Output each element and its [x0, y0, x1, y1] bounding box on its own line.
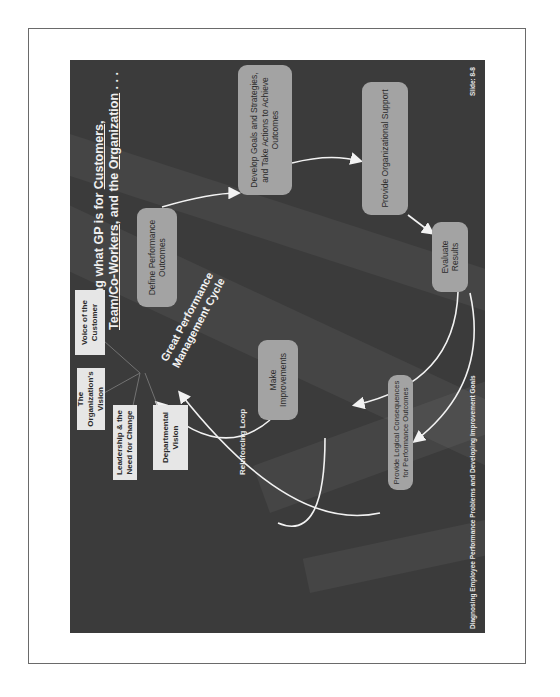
- input-departmental-vision: Departmental Vision: [153, 405, 188, 470]
- title-sep1: ,: [92, 120, 106, 123]
- slide: Defining what GP is for Customers, Team/…: [70, 60, 485, 633]
- step-evaluate-results: Evaluate Results: [432, 222, 468, 292]
- title-customers: Customers: [92, 124, 106, 189]
- title-team: Team/Co-Workers: [107, 224, 121, 330]
- slide-footer: Diagnosing Employee Performance Problems…: [469, 375, 476, 629]
- slide-rotated-container: Defining what GP is for Customers, Team/…: [70, 60, 485, 633]
- step-provide-organizational-support: Provide Organizational Support: [362, 82, 408, 215]
- reinforcing-loop-label: Reinforcing Loop: [238, 409, 247, 475]
- slide-number: Slide: 8-8: [469, 67, 476, 96]
- step-define-performance-outcomes: Define Performance Outcomes: [137, 208, 177, 307]
- input-organizations-vision: The Organization's Vision: [77, 368, 105, 430]
- title-suffix: . . .: [107, 72, 121, 93]
- step-make-improvements: Make Improvements: [258, 340, 298, 420]
- input-voice-of-customer: Voice of the Customer: [75, 290, 105, 355]
- step-develop-goals: Develop Goals and Strategies, and Take A…: [238, 65, 292, 195]
- title-organization: Organization: [107, 93, 121, 169]
- input-leadership-need-for-change: Leadership & the Need for Change: [113, 405, 137, 480]
- step-provide-logical-consequences: Provide Logical Consequences for Perform…: [388, 375, 413, 490]
- title-sep2: , and the: [107, 169, 121, 224]
